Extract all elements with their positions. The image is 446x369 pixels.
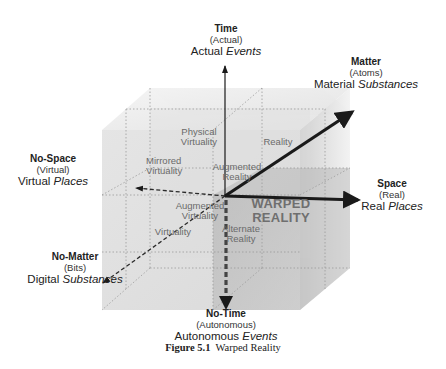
axis-title: Space: [352, 178, 432, 190]
cell-augmented-virtuality: Augmented Virtuality: [171, 201, 229, 222]
label-no-time: No-Time (Autonomous) Autonomous Events: [166, 308, 286, 344]
label-matter: Matter (Atoms) Material Substances: [306, 56, 426, 92]
axis-description: Material Substances: [306, 78, 426, 91]
label-space: Space (Real) Real Places: [352, 178, 432, 214]
axis-title: Matter: [306, 56, 426, 68]
label-no-matter: No-Matter (Bits) Digital Substances: [20, 251, 130, 287]
axis-subtitle: (Autonomous): [166, 320, 286, 331]
figure-number: Figure 5.1: [165, 342, 210, 353]
axis-subtitle: (Virtual): [8, 165, 98, 176]
cell-reality: Reality: [258, 137, 298, 147]
cell-mirrored-virtuality: Mirrored Virtuality: [146, 156, 196, 177]
axis-title: No-Matter: [20, 251, 130, 263]
axis-subtitle: (Atoms): [306, 68, 426, 79]
axis-title: Time: [186, 23, 266, 35]
axis-description: Real Places: [352, 200, 432, 213]
cell-physical-virtuality: Physical Virtuality: [174, 127, 224, 148]
axis-subtitle: (Actual): [186, 35, 266, 46]
axis-title: No-Space: [8, 153, 98, 165]
axis-description: Actual Events: [186, 45, 266, 58]
axis-title: No-Time: [166, 308, 286, 320]
axis-description: Virtual Places: [8, 175, 98, 188]
label-no-space: No-Space (Virtual) Virtual Places: [8, 153, 98, 189]
axis-subtitle: (Bits): [20, 263, 130, 274]
figure-title: Warped Reality: [215, 342, 280, 353]
cell-virtuality: Virtuality: [148, 227, 198, 237]
cell-augmented-reality: Augmented Reality: [209, 162, 265, 183]
cell-alternate-reality: Alternate Reality: [216, 224, 266, 245]
figure-caption: Figure 5.1Warped Reality: [0, 342, 446, 353]
cell-warped-reality: WARPED REALITY: [246, 197, 316, 226]
label-time: Time (Actual) Actual Events: [186, 23, 266, 59]
axis-description: Digital Substances: [20, 273, 130, 286]
axis-subtitle: (Real): [352, 190, 432, 201]
